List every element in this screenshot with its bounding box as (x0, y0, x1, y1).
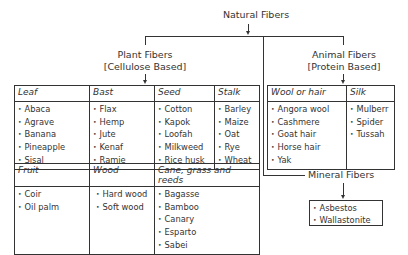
list-item: Hard wood (96, 188, 151, 201)
category-items-stalk: Barley Maize Oat Rye Wheat (215, 102, 260, 170)
category-header-cane: Cane, grass and reeds (155, 164, 260, 187)
mineral-title: Mineral Fibers (305, 169, 388, 181)
root-label: Natural Fibers (200, 9, 312, 21)
category-items-leaf: Abaca Agrave Banana Pineapple Sisal (15, 102, 90, 170)
animal-subtitle: [Protein Based] (294, 61, 394, 73)
list-item: Loofah (158, 128, 211, 141)
category-items-silk: Mulberr Spider Tussah (347, 102, 395, 170)
arrow-plant (143, 80, 147, 84)
list-item: Coir (18, 188, 86, 201)
list-item: Wallastonite (313, 214, 379, 226)
list-item: Sabei (158, 239, 256, 252)
category-header-stalk: Stalk (215, 86, 260, 102)
list-item: Soft wood (96, 201, 151, 214)
plant-fiber-table-row2: Fruit Wood Cane, grass and reeds Coir Oi… (14, 163, 260, 255)
category-items-wood: Hard wood Soft wood (90, 187, 155, 255)
list-item: Barley (218, 103, 256, 116)
list-item: Oil palm (18, 201, 86, 214)
list-item: Hemp (93, 116, 151, 129)
category-header-wool: Wool or hair (268, 86, 347, 102)
animal-fiber-table: Wool or hair Silk Angora wool Cashmere G… (267, 85, 395, 170)
list-item: Abaca (18, 103, 86, 116)
list-item: Asbestos (313, 202, 379, 214)
connector-branch-horizontal (145, 36, 344, 37)
category-header-seed: Seed (155, 86, 215, 102)
list-item: Mulberr (350, 103, 391, 116)
list-item: Spider (350, 116, 391, 129)
list-item: Goat hair (271, 128, 343, 141)
list-item: Agrave (18, 116, 86, 129)
category-items-cane: Bagasse Bamboo Canary Esparto Sabei (155, 187, 260, 255)
list-item: Oat (218, 128, 256, 141)
list-item: Bagasse (158, 188, 256, 201)
list-item: Jute (93, 128, 151, 141)
arrow-mineral (341, 195, 345, 199)
category-items-fruit: Coir Oil palm (15, 187, 90, 255)
category-header-bast: Bast (90, 86, 155, 102)
plant-fiber-table-row1: Leaf Bast Seed Stalk Abaca Agrave Banana… (14, 85, 260, 170)
list-item: Horse hair (271, 141, 343, 154)
connector-animal-right (343, 36, 344, 45)
plant-title: Plant Fibers (95, 49, 195, 61)
list-item: Canary (158, 213, 256, 226)
list-item: Rye (218, 141, 256, 154)
animal-title: Animal Fibers (294, 49, 394, 61)
list-item: Pineapple (18, 141, 86, 154)
list-item: Yak (271, 154, 343, 167)
connector-mineral-vertical (263, 36, 264, 176)
category-header-leaf: Leaf (15, 86, 90, 102)
list-item: Cotton (158, 103, 211, 116)
arrow-animal (341, 80, 345, 84)
mineral-fiber-box: Asbestos Wallastonite (309, 200, 383, 226)
list-item: Tussah (350, 128, 391, 141)
list-item: Cashmere (271, 116, 343, 129)
category-header-silk: Silk (347, 86, 395, 102)
list-item: Maize (218, 116, 256, 129)
list-item: Banana (18, 128, 86, 141)
arrow-root (246, 31, 250, 35)
category-items-seed: Cotton Kapok Loofah Milkweed Rice husk (155, 102, 215, 170)
category-header-fruit: Fruit (15, 164, 90, 187)
list-item: Flax (93, 103, 151, 116)
list-item: Kenaf (93, 141, 151, 154)
category-items-wool: Angora wool Cashmere Goat hair Horse hai… (268, 102, 347, 170)
plant-subtitle: [Cellulose Based] (95, 61, 195, 73)
connector-mineral-horizontal (263, 175, 305, 176)
category-items-bast: Flax Hemp Jute Kenaf Ramie (90, 102, 155, 170)
list-item: Kapok (158, 116, 211, 129)
connector-plant-left (145, 36, 146, 45)
list-item: Esparto (158, 226, 256, 239)
list-item: Milkweed (158, 141, 211, 154)
list-item: Bamboo (158, 201, 256, 214)
list-item: Angora wool (271, 103, 343, 116)
category-header-wood: Wood (90, 164, 155, 187)
